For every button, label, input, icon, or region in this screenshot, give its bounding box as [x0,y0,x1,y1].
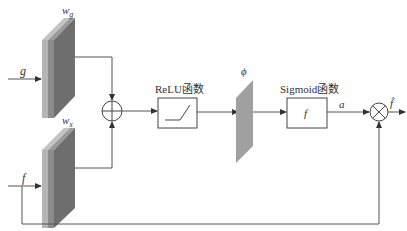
attention-coefficient-label: a [339,98,345,110]
output-label: f̂ [390,97,395,109]
sigmoid-title: Sigmoid函数 [280,83,339,95]
phi-layer [236,80,253,163]
wg-label: wg [62,4,73,19]
wx-label: wx [62,114,73,129]
relu-block [158,98,197,128]
wx-to-sum-line [75,122,112,168]
multiply-node-icon [370,103,388,121]
phi-label: ϕ [241,65,247,77]
skip-connection-line [22,122,379,224]
attention-gate-diagram: wg wx g f ReLU函数 ϕ Sigmoid函数 f a f̂ [0,0,407,231]
relu-title: ReLU函数 [155,83,204,95]
weight-block-wx [42,128,75,228]
weight-block-wg [42,18,75,118]
input-g-label: g [20,64,26,78]
sum-node-icon [102,101,122,121]
input-f-label: f [22,171,27,185]
wg-to-sum-line [75,57,112,100]
